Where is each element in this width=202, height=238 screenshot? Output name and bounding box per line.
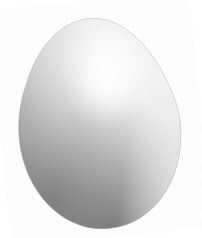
egg-illustration: [0, 0, 202, 238]
egg-stage: [0, 0, 202, 238]
egg-shape: [0, 0, 202, 238]
image-canvas: [0, 0, 202, 238]
